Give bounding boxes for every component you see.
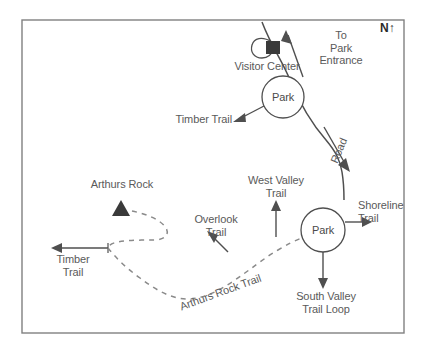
overlook-trail-label: Overlook Trail — [183, 213, 249, 238]
building-square-icon — [266, 41, 280, 54]
park-node-north-label: Park — [263, 91, 303, 104]
park-trail-map: N↑ Visitor Center To Park Entrance Park … — [0, 0, 424, 354]
shoreline-trail-label: Shoreline Trail — [358, 199, 420, 224]
timber-trail-north-arrow — [233, 106, 264, 122]
west-valley-trail-arrow — [271, 200, 281, 237]
timber-trail-west-arrow — [51, 243, 108, 253]
south-valley-trail-loop-label: South Valley Trail Loop — [286, 290, 366, 315]
to-park-entrance-label: To Park Entrance — [310, 29, 372, 67]
west-valley-trail-label: West Valley Trail — [239, 174, 313, 199]
compass-north-icon: N↑ — [380, 22, 395, 35]
map-border — [22, 20, 404, 333]
arthurs-rock-label: Arthurs Rock — [78, 178, 166, 191]
arthurs-rock-spur-trail — [108, 211, 167, 248]
timber-trail-north-label: Timber Trail — [150, 113, 232, 126]
park-node-south-label: Park — [303, 224, 343, 237]
timber-trail-west-label: Timber Trail — [43, 253, 103, 278]
south-valley-trail-arrow — [318, 252, 328, 289]
visitor-center-label: Visitor Center — [225, 60, 309, 73]
peak-triangle-icon — [112, 200, 130, 216]
